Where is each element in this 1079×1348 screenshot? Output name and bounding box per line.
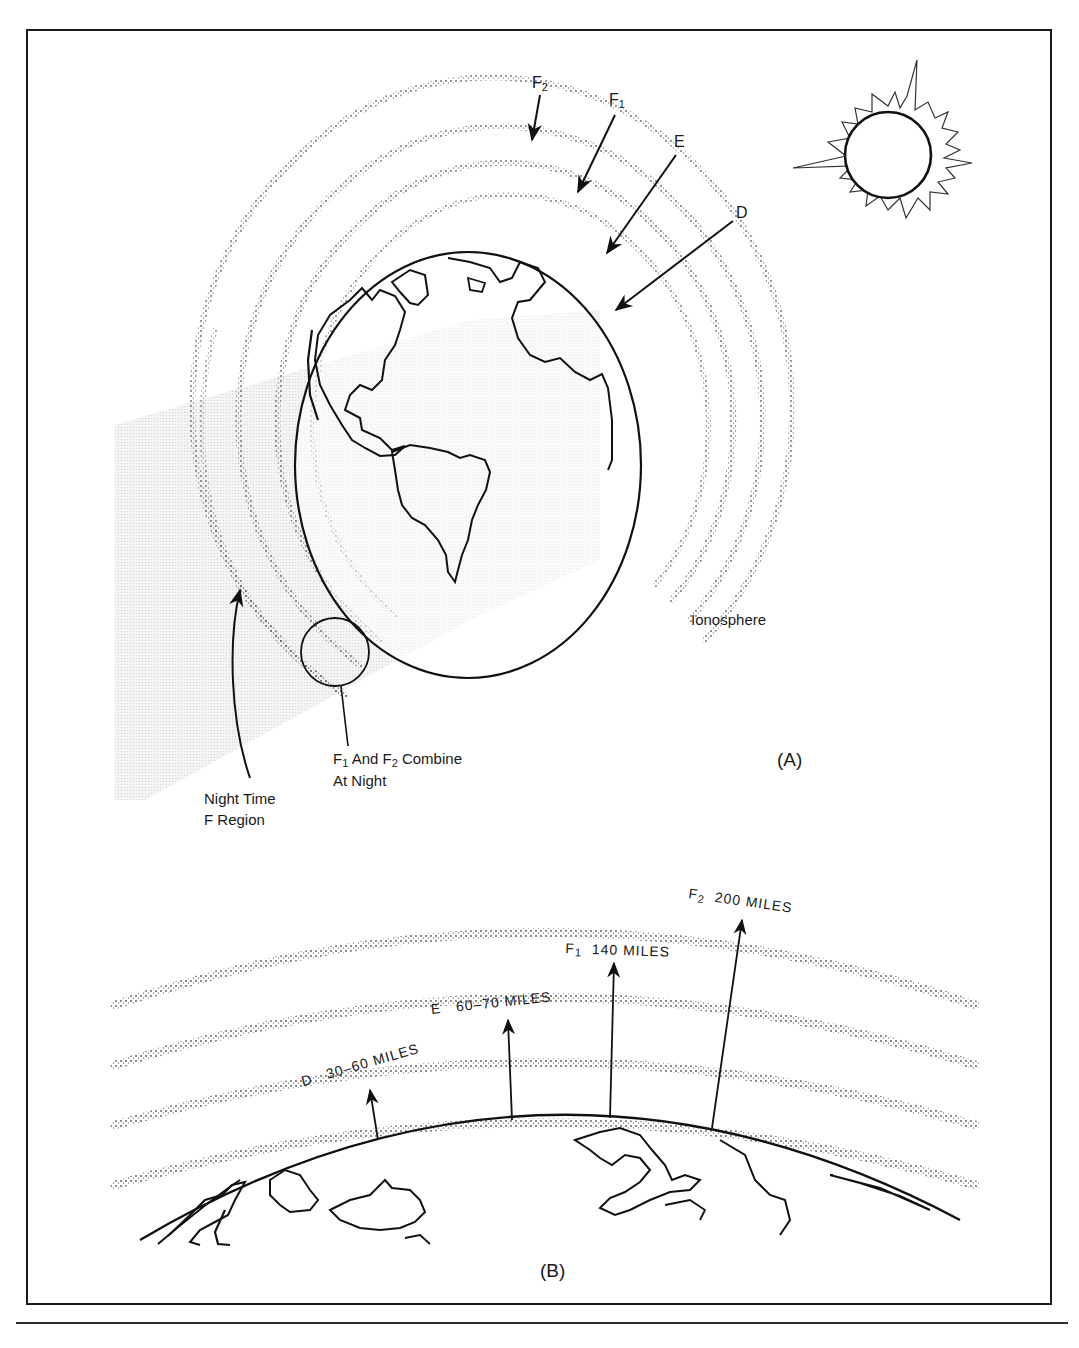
combine-label-line2: At Night: [333, 772, 386, 790]
f2-altitude-arrow: [712, 920, 742, 1128]
ionosphere-label: Ionosphere: [691, 611, 766, 629]
earth-globe-icon: [295, 252, 641, 678]
panel-a-id: (A): [777, 751, 802, 769]
layer-label-f1: F1: [609, 91, 625, 113]
night-label-line2: F Region: [204, 811, 265, 829]
night-label-line1: Night Time: [204, 790, 276, 808]
f2-arrow: [532, 95, 540, 140]
panel-b-id: (B): [540, 1262, 565, 1280]
layer-label-e: E: [674, 133, 685, 151]
layer-label-d: D: [736, 204, 748, 222]
layer-f1-altitude-label: F1 140 MILES: [565, 939, 670, 965]
layer-label-f2: F2: [532, 74, 548, 96]
f1-altitude-arrow: [610, 963, 614, 1118]
altitude-arrows: [370, 920, 742, 1140]
ionosphere-diagram: [0, 0, 1079, 1348]
e-altitude-arrow: [508, 1020, 512, 1120]
combine-label-line1: F1 And F2 Combine: [333, 750, 462, 772]
earth-surface: [140, 1115, 960, 1245]
panel-b-layers: [115, 933, 975, 1186]
sun-icon: [793, 60, 972, 218]
